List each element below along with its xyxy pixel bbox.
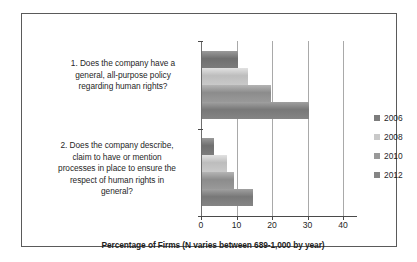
category-separator-tick-0: [198, 41, 203, 42]
category-label-1-line-1: 1. Does the company have a: [71, 58, 175, 68]
bar-2008-category-2: [202, 155, 227, 172]
chart-frame: 1. Does the company have a general, all-…: [21, 13, 397, 247]
axis-tick-label-30: 30: [295, 220, 321, 230]
category-label-2-line-4: respect of human rights in: [70, 175, 164, 185]
legend-item-2008[interactable]: 2008: [374, 127, 417, 146]
bar-2008-category-1: [202, 68, 248, 85]
bar-2006-category-1: [202, 51, 238, 68]
category-label-1-line-2: general, all-purpose policy: [75, 70, 171, 80]
category-separator-tick-1: [198, 129, 203, 130]
gridline-20: [272, 41, 273, 216]
chart-legend: 2006200820102012: [374, 108, 417, 184]
chart-figure: 1. Does the company have a general, all-…: [0, 0, 417, 262]
category-separator-tick-2: [198, 216, 203, 217]
gridline-30: [308, 41, 309, 216]
category-label-1: 1. Does the company have a general, all-…: [48, 58, 198, 93]
category-label-2-line-5: general?: [101, 186, 133, 196]
legend-swatch-icon-2006: [374, 115, 380, 121]
legend-swatch-icon-2012: [374, 172, 380, 178]
legend-label-2006: 2006: [384, 113, 403, 123]
axis-tick-label-40: 40: [330, 220, 356, 230]
legend-item-2012[interactable]: 2012: [374, 165, 417, 184]
bar-2006-category-2: [202, 138, 214, 155]
plot-area: [201, 41, 343, 216]
bar-2012-category-1: [202, 102, 309, 119]
category-label-1-line-3: regarding human rights?: [79, 81, 168, 91]
legend-swatch-icon-2010: [374, 153, 380, 159]
legend-label-2010: 2010: [384, 151, 403, 161]
axis-title: Percentage of Firms (N varies between 68…: [48, 240, 378, 250]
legend-item-2006[interactable]: 2006: [374, 108, 417, 127]
axis-tick-label-20: 20: [259, 220, 285, 230]
legend-swatch-icon-2008: [374, 134, 380, 140]
base-axis-line: [201, 216, 357, 217]
legend-label-2008: 2008: [384, 132, 403, 142]
gridline-40: [343, 41, 344, 216]
bar-2012-category-2: [202, 189, 253, 206]
bar-2010-category-2: [202, 172, 234, 189]
legend-item-2010[interactable]: 2010: [374, 146, 417, 165]
axis-tick-label-0: 0: [188, 220, 214, 230]
category-label-2: 2. Does the company describe, claim to h…: [36, 140, 198, 198]
category-label-2-line-3: processes in place to ensure the: [58, 163, 176, 173]
axis-tick-label-10: 10: [224, 220, 250, 230]
bar-2010-category-1: [202, 85, 271, 102]
category-label-2-line-1: 2. Does the company describe,: [61, 140, 174, 150]
category-label-2-line-2: claim to have or mention: [72, 152, 161, 162]
legend-label-2012: 2012: [384, 170, 403, 180]
